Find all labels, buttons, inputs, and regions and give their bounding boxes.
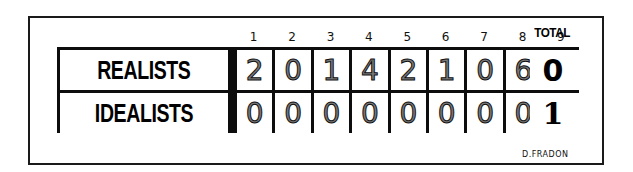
scoreboard-table: REALISTS2014210620IDEALISTS0000000001: [57, 47, 579, 133]
inning-number: 7: [466, 30, 502, 44]
inning-score-cell: 1: [429, 50, 464, 90]
inning-score-cell: 0: [237, 93, 272, 133]
total-score-cell: 0: [530, 50, 576, 90]
total-score: 0: [543, 53, 564, 88]
inning-score: 0: [323, 97, 341, 130]
inning-score: 1: [438, 54, 456, 87]
inning-score-cell: 4: [352, 50, 387, 90]
inning-score-cell: 0: [429, 93, 464, 133]
inning-score: 0: [438, 97, 456, 130]
inning-number: 2: [274, 30, 310, 44]
inning-score-cell: 2: [237, 50, 272, 90]
team-name-idealists: IDEALISTS: [60, 93, 228, 133]
inning-number: 5: [389, 30, 425, 44]
total-score-cell: 1: [530, 93, 576, 133]
team-name-text: REALISTS: [97, 56, 190, 85]
team-name-realists: REALISTS: [60, 50, 228, 90]
inning-score: 4: [361, 54, 379, 87]
inning-score: 2: [399, 54, 417, 87]
inning-score-cell: 0: [391, 93, 426, 133]
inning-score: 0: [361, 97, 379, 130]
artist-signature: D.FRADON: [522, 150, 568, 159]
inning-score-cell: 0: [467, 93, 502, 133]
inning-number: 3: [313, 30, 349, 44]
inning-score: 0: [476, 97, 494, 130]
inning-score-cell: 2: [391, 50, 426, 90]
inning-score: 0: [476, 54, 494, 87]
total-score: 1: [543, 96, 564, 131]
inning-score: 0: [284, 54, 302, 87]
inning-score: 1: [323, 54, 341, 87]
inning-number: 1: [236, 30, 272, 44]
inning-score-cell: 0: [467, 50, 502, 90]
inning-score-cell: 0: [275, 50, 310, 90]
inning-score: 0: [246, 97, 264, 130]
inning-number: 4: [351, 30, 387, 44]
inning-score: 0: [399, 97, 417, 130]
inning-score: 0: [284, 97, 302, 130]
inning-score-cell: 0: [352, 93, 387, 133]
team-name-text: IDEALISTS: [95, 99, 193, 128]
total-header: TOTAL: [530, 25, 575, 40]
inning-score-cell: 1: [314, 50, 349, 90]
inning-score: 2: [246, 54, 264, 87]
inning-score-cell: 0: [275, 93, 310, 133]
inning-score-cell: 0: [314, 93, 349, 133]
inning-number: 6: [428, 30, 464, 44]
